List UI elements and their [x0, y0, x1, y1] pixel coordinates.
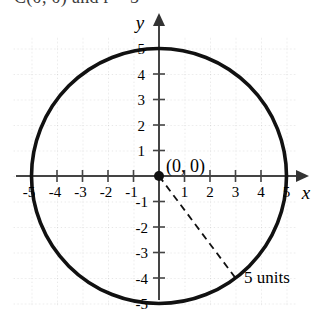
x-axis-arrow — [296, 170, 309, 182]
origin-point-label: (0, 0) — [166, 156, 205, 177]
x-tick-label-2: 2 — [206, 184, 214, 200]
radius-length-label: 5 units — [244, 268, 290, 287]
x-axis-label: x — [301, 182, 311, 203]
y-tick-label-neg2: -2 — [136, 220, 149, 236]
x-tick-label-4: 4 — [257, 184, 265, 200]
x-tick-label-neg2: -2 — [100, 184, 113, 200]
grid-background — [12, 36, 297, 306]
y-tick-label-1: 1 — [138, 143, 146, 159]
x-tick-label-neg5: -5 — [23, 184, 36, 200]
y-tick-label-4: 4 — [138, 67, 146, 83]
y-tick-label-3: 3 — [138, 92, 146, 108]
circle-graph-figure: x y -5 -4 -3 -2 -1 1 2 3 4 5 1 2 3 4 5 -… — [0, 0, 325, 316]
x-tick-label-5: 5 — [283, 184, 291, 200]
y-tick-label-neg1: -1 — [136, 194, 149, 210]
y-tick-label-5: 5 — [138, 41, 146, 57]
x-tick-label-3: 3 — [232, 184, 240, 200]
coordinate-plane-svg: x y -5 -4 -3 -2 -1 1 2 3 4 5 1 2 3 4 5 -… — [0, 0, 325, 316]
y-axis-label: y — [134, 12, 145, 33]
y-axis-arrow — [153, 13, 165, 26]
x-tick-label-neg3: -3 — [74, 184, 87, 200]
y-tick-label-2: 2 — [138, 118, 146, 134]
y-tick-label-neg3: -3 — [136, 245, 149, 261]
origin-point-marker — [154, 171, 164, 181]
x-tick-label-neg4: -4 — [49, 184, 62, 200]
y-tick-label-neg5: -5 — [136, 296, 149, 312]
x-tick-label-1: 1 — [181, 184, 189, 200]
y-tick-label-neg4: -4 — [136, 271, 149, 287]
